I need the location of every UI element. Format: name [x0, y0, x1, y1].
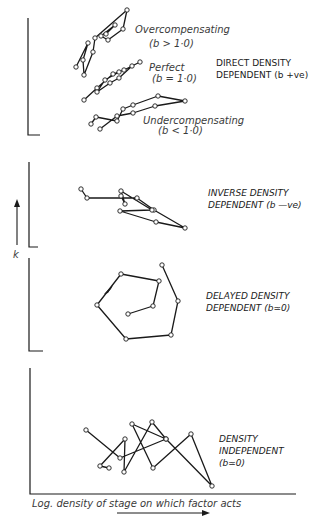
undercompensating-note: (b < 1·0) — [158, 125, 203, 136]
series-line — [76, 10, 127, 75]
data-point-marker — [118, 209, 122, 213]
data-point-marker — [79, 187, 83, 191]
series-0-0 — [74, 8, 129, 77]
data-point-marker — [164, 437, 168, 441]
panel-independent-axes — [30, 368, 296, 494]
data-point-marker — [91, 50, 95, 54]
panel-inverse-axes — [29, 162, 38, 247]
data-point-marker — [124, 337, 128, 341]
figure-canvas: k Overcompensating (b > 1·0) Perfect (b … — [0, 0, 316, 519]
data-point-marker — [115, 119, 119, 123]
independent-title-line3: (b≃0) — [219, 458, 245, 468]
data-point-marker — [189, 432, 193, 436]
data-point-marker — [150, 208, 154, 212]
data-point-marker — [86, 41, 90, 45]
series-line — [97, 265, 178, 339]
direction-arrow-icon — [104, 285, 113, 294]
data-point-marker — [138, 60, 142, 64]
data-point-marker — [119, 272, 123, 276]
data-point-marker — [150, 420, 154, 424]
data-point-marker — [183, 99, 187, 103]
data-point-marker — [94, 115, 98, 119]
data-point-marker — [125, 8, 129, 12]
data-point-marker — [111, 72, 115, 76]
data-point-marker — [98, 127, 102, 131]
data-point-marker — [131, 103, 135, 107]
data-point-marker — [95, 90, 99, 94]
data-point-marker — [169, 333, 173, 337]
data-point-marker — [123, 437, 127, 441]
data-point-marker — [98, 464, 102, 468]
x-axis-label: Log. density of stage on which factor ac… — [32, 498, 241, 509]
data-point-marker — [119, 194, 123, 198]
data-point-marker — [135, 196, 139, 200]
data-point-marker — [153, 104, 157, 108]
data-point-marker — [210, 484, 214, 488]
data-point-marker — [104, 32, 108, 36]
data-point-marker — [84, 428, 88, 432]
data-point-marker — [117, 70, 121, 74]
data-point-marker — [108, 81, 112, 85]
data-point-marker — [130, 64, 134, 68]
independent-title-line2: INDEPENDENT — [219, 446, 285, 456]
data-point-marker — [131, 111, 135, 115]
data-point-marker — [176, 299, 180, 303]
delayed-title-line1: DELAYED DENSITY — [206, 291, 291, 301]
data-point-marker — [130, 422, 134, 426]
overcompensating-label: Overcompensating — [135, 24, 230, 35]
perfect-label: Perfect — [149, 62, 185, 73]
data-point-marker — [123, 202, 127, 206]
data-point-marker — [93, 36, 97, 40]
data-point-marker — [106, 38, 110, 42]
data-point-marker — [82, 73, 86, 77]
data-point-marker — [151, 466, 155, 470]
data-point-marker — [117, 76, 121, 80]
delayed-title-line2: DEPENDENT (b≃0) — [206, 303, 290, 313]
data-point-marker — [151, 304, 155, 308]
series-2-0 — [95, 263, 180, 341]
direct-title-line1: DIRECT DENSITY — [216, 58, 291, 68]
data-point-marker — [115, 114, 119, 118]
data-point-marker — [157, 279, 161, 283]
data-point-marker — [89, 122, 93, 126]
independent-title-line1: DENSITY — [219, 434, 259, 444]
data-point-marker — [160, 263, 164, 267]
data-point-marker — [122, 68, 126, 72]
data-point-marker — [183, 226, 187, 230]
data-point-marker — [126, 312, 130, 316]
panel-direct-axes — [28, 18, 40, 135]
data-point-marker — [103, 78, 107, 82]
data-point-marker — [154, 220, 158, 224]
data-point-marker — [118, 456, 122, 460]
series-line — [86, 422, 212, 486]
data-point-marker — [81, 58, 85, 62]
data-point-marker — [74, 65, 78, 69]
data-point-marker — [99, 34, 103, 38]
data-point-marker — [107, 466, 111, 470]
series-1-0 — [79, 187, 187, 230]
inverse-title-line1: INVERSE DENSITY — [208, 188, 290, 198]
data-point-marker — [156, 94, 160, 98]
data-point-marker — [119, 189, 123, 193]
perfect-note: (b = 1·0) — [152, 73, 197, 84]
series-line — [81, 189, 185, 228]
data-point-marker — [82, 98, 86, 102]
direct-title-line2: DEPENDENT (b +ve) — [216, 70, 308, 80]
overcompensating-note: (b > 1·0) — [149, 38, 194, 49]
y-axis-label: k — [13, 249, 20, 260]
data-point-marker — [121, 27, 125, 31]
data-point-marker — [85, 196, 89, 200]
data-point-marker — [113, 23, 117, 27]
data-point-marker — [121, 107, 125, 111]
series-3-0 — [84, 420, 214, 488]
data-point-marker — [95, 303, 99, 307]
inverse-title-line2: DEPENDENT (b —ve) — [208, 200, 302, 210]
panel-delayed-axes — [29, 258, 43, 351]
data-point-marker — [122, 470, 126, 474]
series-0-1 — [82, 60, 142, 102]
